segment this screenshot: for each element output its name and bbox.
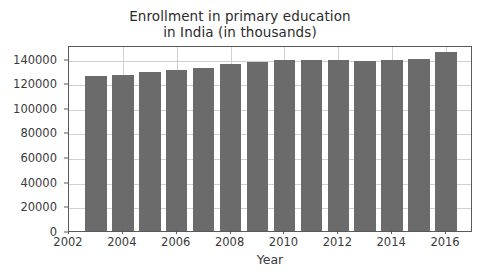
x-tick-label: 2004 <box>107 235 136 249</box>
bar <box>354 61 376 231</box>
x-tick-label: 2012 <box>323 235 352 249</box>
x-tick-label: 2008 <box>215 235 244 249</box>
bar <box>139 72 161 231</box>
x-tick-mark <box>68 230 69 234</box>
bar <box>193 68 215 231</box>
bar <box>166 70 188 231</box>
x-tick-mark <box>176 230 177 234</box>
y-tick-label: 40000 <box>20 176 57 190</box>
y-tick-label: 60000 <box>20 151 57 165</box>
bar <box>274 60 296 231</box>
chart-title: Enrollment in primary education in India… <box>0 8 480 40</box>
chart-title-line-1: Enrollment in primary education <box>0 8 480 24</box>
y-tick-label: 100000 <box>13 102 57 116</box>
bar <box>220 64 242 231</box>
bar-series <box>69 47 471 231</box>
x-tick-label: 2014 <box>377 235 406 249</box>
bar <box>435 52 457 231</box>
x-tick-label: 2010 <box>269 235 298 249</box>
bar <box>112 75 134 231</box>
x-tick-label: 2016 <box>430 235 459 249</box>
x-axis-tick-labels: 20022004200620082010201220142016 <box>68 234 472 252</box>
y-axis-tick-labels: 020000400006000080000100000120000140000 <box>0 46 64 232</box>
chart-title-line-2: in India (in thousands) <box>0 24 480 40</box>
x-tick-mark <box>283 230 284 234</box>
x-tick-mark <box>445 230 446 234</box>
x-tick-label: 2006 <box>161 235 190 249</box>
x-tick-mark <box>337 230 338 234</box>
y-tick-label: 20000 <box>20 200 57 214</box>
x-tick-label: 2002 <box>53 235 82 249</box>
x-tick-mark <box>391 230 392 234</box>
y-tick-label: 80000 <box>20 126 57 140</box>
chart-figure: Enrollment in primary education in India… <box>0 0 480 276</box>
bar <box>408 59 430 231</box>
bar <box>328 60 350 231</box>
bar <box>381 60 403 231</box>
x-axis-label: Year <box>68 252 472 267</box>
y-tick-label: 140000 <box>13 53 57 67</box>
bar <box>247 62 269 231</box>
bar <box>85 76 107 231</box>
y-tick-label: 120000 <box>13 77 57 91</box>
bar <box>301 60 323 231</box>
plot-area <box>68 46 472 232</box>
x-tick-mark <box>122 230 123 234</box>
x-tick-mark <box>230 230 231 234</box>
